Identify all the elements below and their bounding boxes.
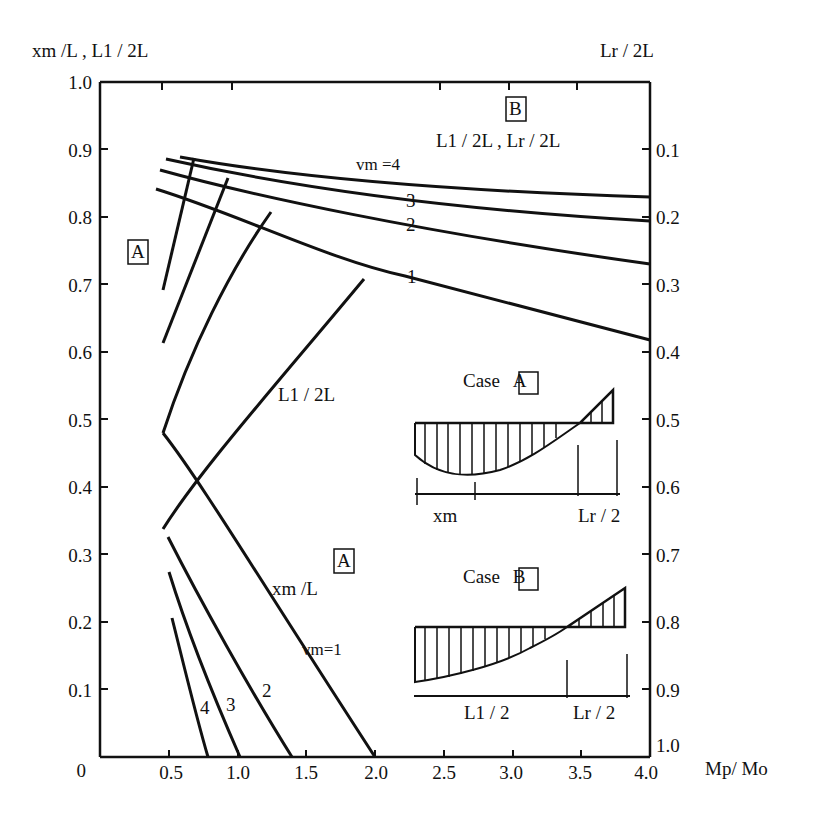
case-a-text: Case bbox=[463, 370, 500, 391]
case-a-box: A bbox=[513, 370, 527, 391]
box-a-left: A bbox=[131, 241, 145, 263]
box-a-lower: A bbox=[337, 550, 351, 572]
xm-l-label: xm /L bbox=[272, 578, 318, 600]
curve-label-m2: 2 bbox=[262, 680, 272, 702]
vm1-label: vm=1 bbox=[302, 640, 342, 660]
inset-l12-label: L1 / 2 bbox=[464, 702, 509, 724]
case-b-box: B bbox=[513, 566, 526, 587]
vm4-label: vm =4 bbox=[356, 155, 400, 175]
b-curves-label: L1 / 2L , Lr / 2L bbox=[436, 130, 560, 152]
inset-a-lr2-label: Lr / 2 bbox=[578, 505, 620, 527]
l1-2l-label: L1 / 2L bbox=[278, 384, 335, 406]
curve-label-m3: 3 bbox=[226, 694, 236, 716]
curve-label-1: 1 bbox=[407, 266, 417, 288]
curve-label-m4: 4 bbox=[200, 697, 210, 719]
inset-xm-label: xm bbox=[433, 505, 457, 527]
x-axis-title: Mp/ Mo bbox=[705, 758, 768, 780]
case-b-text: Case bbox=[463, 566, 500, 587]
box-b: B bbox=[509, 98, 522, 120]
inset-b-lr2-label: Lr / 2 bbox=[573, 702, 615, 724]
y-right-axis-title: Lr / 2L bbox=[600, 40, 654, 62]
y-left-axis-title: xm /L , L1 / 2L bbox=[32, 40, 148, 62]
case-a-title: Case A bbox=[463, 370, 526, 392]
case-b-title: Case B bbox=[463, 566, 525, 588]
curve-label-2: 2 bbox=[406, 214, 416, 236]
curve-label-3: 3 bbox=[406, 190, 416, 212]
